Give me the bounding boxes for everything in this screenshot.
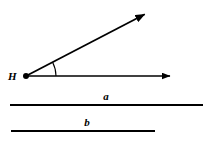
geometry-diagram-canvas: H a b	[0, 0, 211, 141]
line-label-a: a	[103, 90, 109, 102]
angle-arc-icon	[53, 62, 56, 76]
vertex-point-dot	[23, 73, 29, 79]
vertex-label-h: H	[7, 70, 17, 82]
line-label-b: b	[84, 116, 90, 128]
angle-ray-diagonal	[26, 14, 145, 76]
geometry-figure: H a b	[0, 0, 211, 141]
